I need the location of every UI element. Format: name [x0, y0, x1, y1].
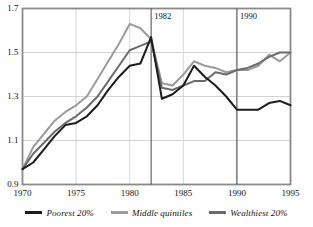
legend-item-middle[interactable]: Middle quintiles — [111, 208, 192, 218]
y-axis-tick-1.1: 1.1 — [0, 135, 19, 145]
y-axis-tick-1.3: 1.3 — [0, 91, 19, 101]
annotation-label-1990: 1990 — [240, 11, 257, 21]
legend-swatch-poorest — [25, 211, 42, 214]
series-line-poorest-20 — [23, 37, 291, 169]
legend-swatch-wealthiest — [209, 211, 226, 214]
legend-swatch-middle — [111, 211, 128, 214]
x-axis-tick-1975: 1975 — [58, 188, 94, 198]
legend-item-poorest[interactable]: Poorest 20% — [25, 208, 94, 218]
x-axis-tick-1970: 1970 — [5, 188, 41, 198]
y-axis-tick-1.5: 1.5 — [0, 47, 19, 57]
x-axis-tick-1985: 1985 — [165, 188, 201, 198]
chart-canvas — [0, 0, 313, 192]
legend-label-poorest: Poorest 20% — [46, 208, 94, 218]
legend-label-middle: Middle quintiles — [132, 208, 192, 218]
chart-legend: Poorest 20% Middle quintiles Wealthiest … — [0, 198, 313, 227]
legend-item-wealthiest[interactable]: Wealthiest 20% — [209, 208, 287, 218]
y-axis-tick-1.7: 1.7 — [0, 3, 19, 13]
x-axis-tick-1990: 1990 — [219, 188, 255, 198]
series-line-wealthiest-20 — [23, 42, 291, 170]
x-axis-tick-1980: 1980 — [112, 188, 148, 198]
line-chart-figure: 0.91.11.31.51.71970197519801985199019951… — [0, 0, 313, 227]
annotation-label-1982: 1982 — [154, 11, 171, 21]
x-axis-tick-1995: 1995 — [273, 188, 309, 198]
plot-area-wrapper: 0.91.11.31.51.71970197519801985199019951… — [0, 0, 313, 192]
legend-label-wealthiest: Wealthiest 20% — [230, 208, 287, 218]
